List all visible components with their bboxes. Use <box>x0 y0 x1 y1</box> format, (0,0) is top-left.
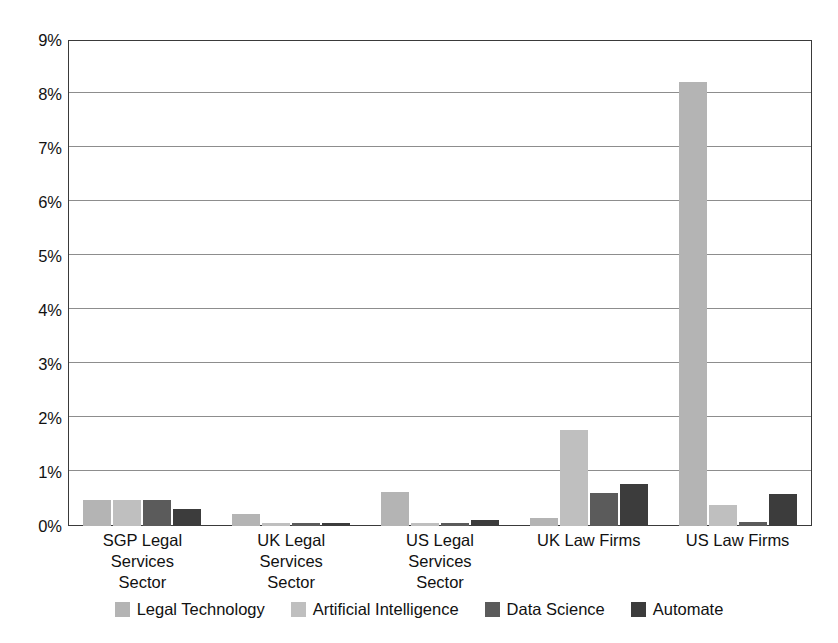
y-axis-tick-label: 8% <box>6 86 62 103</box>
chart-legend: Legal TechnologyArtificial IntelligenceD… <box>0 601 838 618</box>
y-axis-tick-label: 3% <box>6 356 62 373</box>
legend-label: Artificial Intelligence <box>313 601 459 618</box>
y-axis-tick-label: 7% <box>6 140 62 157</box>
y-axis-tick-label: 4% <box>6 302 62 319</box>
legend-label: Automate <box>653 601 724 618</box>
x-axis-group-label: US Law Firms <box>663 530 812 551</box>
x-axis: SGP Legal Services SectorUK Legal Servic… <box>68 530 812 596</box>
y-axis: 0%1%2%3%4%5%6%7%8%9% <box>0 40 62 526</box>
gridline <box>69 308 811 309</box>
gridline <box>69 146 811 147</box>
legend-label: Data Science <box>507 601 605 618</box>
legend-item: Artificial Intelligence <box>291 601 459 618</box>
legend-item: Legal Technology <box>115 601 265 618</box>
legend-item: Automate <box>631 601 724 618</box>
y-axis-tick-label: 2% <box>6 410 62 427</box>
legend-item: Data Science <box>485 601 605 618</box>
gridline <box>69 254 811 255</box>
plot-area <box>68 40 812 526</box>
bar-chart: 0%1%2%3%4%5%6%7%8%9% SGP Legal Services … <box>0 0 838 643</box>
y-axis-tick-label: 9% <box>6 32 62 49</box>
legend-swatch-icon <box>291 602 306 617</box>
y-axis-tick-label: 6% <box>6 194 62 211</box>
gridline <box>69 92 811 93</box>
gridline <box>69 416 811 417</box>
y-axis-tick-label: 1% <box>6 464 62 481</box>
legend-swatch-icon <box>485 602 500 617</box>
gridline <box>69 362 811 363</box>
legend-label: Legal Technology <box>137 601 265 618</box>
legend-swatch-icon <box>115 602 130 617</box>
x-axis-group-label: UK Law Firms <box>514 530 663 551</box>
gridline <box>69 200 811 201</box>
x-axis-group-label: US Legal Services Sector <box>366 530 515 593</box>
gridline <box>69 470 811 471</box>
x-axis-group-label: SGP Legal Services Sector <box>68 530 217 593</box>
x-axis-group-label: UK Legal Services Sector <box>217 530 366 593</box>
y-axis-tick-label: 0% <box>6 518 62 535</box>
legend-swatch-icon <box>631 602 646 617</box>
y-axis-tick-label: 5% <box>6 248 62 265</box>
